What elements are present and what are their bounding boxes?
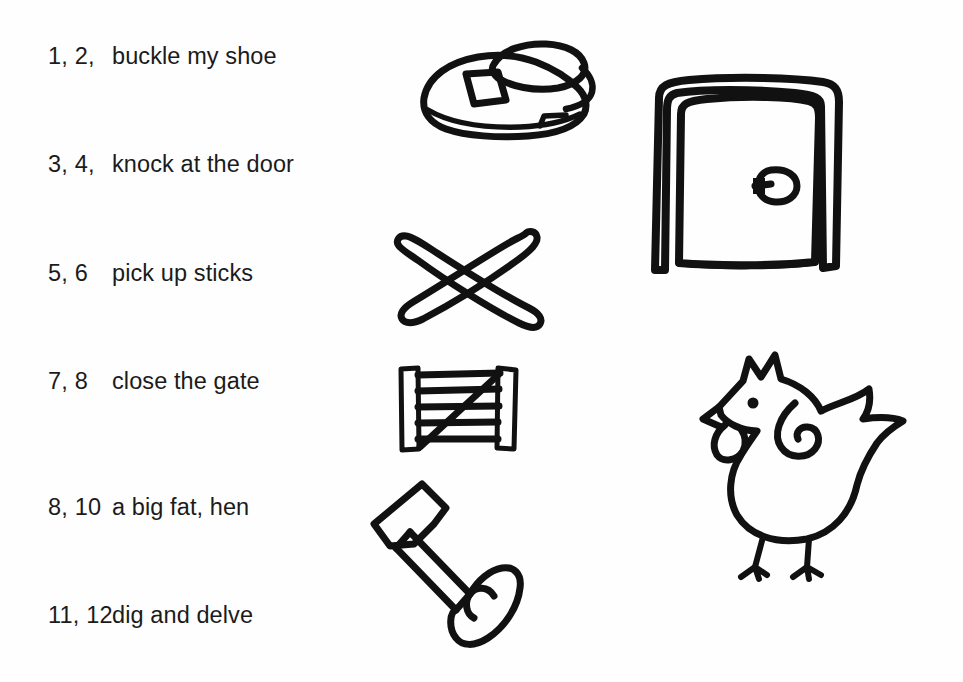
row-phrase: pick up sticks <box>112 260 253 287</box>
row-phrase: knock at the door <box>112 151 294 178</box>
crossed-sticks-icon <box>383 226 563 336</box>
door-icon <box>645 70 851 280</box>
row-phrase: a big fat, hen <box>112 494 249 521</box>
rhyme-row: 1, 2, buckle my shoe <box>0 36 420 76</box>
row-number: 5, 6 <box>0 260 112 287</box>
spade-icon <box>338 472 528 650</box>
row-phrase: buckle my shoe <box>112 43 277 70</box>
rhyme-row: 7, 8 close the gate <box>0 361 420 401</box>
page-canvas: 1, 2, buckle my shoe 3, 4, knock at the … <box>0 0 963 682</box>
row-number: 3, 4, <box>0 151 112 178</box>
row-number: 11, 12 <box>0 602 112 629</box>
rhyme-row: 5, 6 pick up sticks <box>0 253 420 293</box>
row-phrase: close the gate <box>112 368 260 395</box>
gate-icon <box>394 363 526 455</box>
rhyme-row: 3, 4, knock at the door <box>0 144 420 184</box>
row-number: 8, 10 <box>0 494 112 521</box>
row-number: 1, 2, <box>0 43 112 70</box>
shoe-icon <box>416 30 606 142</box>
row-number: 7, 8 <box>0 368 112 395</box>
hen-icon <box>697 345 919 580</box>
row-phrase: dig and delve <box>112 602 253 629</box>
